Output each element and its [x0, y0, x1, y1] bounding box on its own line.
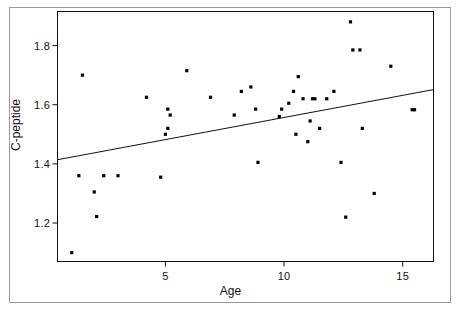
data-point — [169, 113, 172, 116]
data-point — [93, 190, 96, 193]
data-point — [325, 97, 328, 100]
data-point — [77, 174, 80, 177]
data-point — [280, 108, 283, 111]
data-point — [309, 119, 312, 122]
data-point — [233, 113, 236, 116]
data-point — [313, 97, 316, 100]
y-axis-title: C-peptide — [9, 65, 23, 185]
data-point — [256, 161, 259, 164]
x-axis-ticks — [165, 262, 402, 267]
scatter-plot — [0, 0, 461, 312]
data-point — [373, 192, 376, 195]
data-point — [294, 133, 297, 136]
data-point — [413, 108, 416, 111]
data-point — [332, 90, 335, 93]
data-point — [301, 97, 304, 100]
data-point — [351, 48, 354, 51]
data-point — [145, 96, 148, 99]
data-point — [166, 127, 169, 130]
plot-frame — [58, 12, 434, 262]
x-axis-title: Age — [0, 284, 461, 298]
data-point — [278, 115, 281, 118]
x-tick-label: 15 — [396, 270, 409, 282]
x-tick-label: 5 — [162, 270, 168, 282]
data-point — [159, 176, 162, 179]
data-point — [297, 75, 300, 78]
data-point — [339, 161, 342, 164]
data-point — [116, 174, 119, 177]
data-point — [358, 48, 361, 51]
data-point — [166, 108, 169, 111]
data-point — [287, 102, 290, 105]
data-point — [81, 74, 84, 77]
data-point — [344, 216, 347, 219]
data-point — [70, 251, 73, 254]
data-point — [164, 133, 167, 136]
y-tick-label: 1.8 — [14, 40, 50, 52]
y-axis-ticks — [53, 46, 58, 224]
data-point — [240, 90, 243, 93]
x-tick-label: 10 — [278, 270, 291, 282]
data-point — [318, 127, 321, 130]
data-point — [361, 127, 364, 130]
data-point — [209, 96, 212, 99]
data-point — [349, 20, 352, 23]
data-point — [292, 90, 295, 93]
data-point — [95, 215, 98, 218]
data-point — [389, 65, 392, 68]
y-tick-label: 1.2 — [14, 217, 50, 229]
data-point — [249, 85, 252, 88]
data-point — [254, 108, 257, 111]
data-point — [102, 174, 105, 177]
data-point — [185, 69, 188, 72]
data-point — [306, 140, 309, 143]
figure-container: 1.21.41.61.851015 Age C-peptide — [0, 0, 461, 312]
